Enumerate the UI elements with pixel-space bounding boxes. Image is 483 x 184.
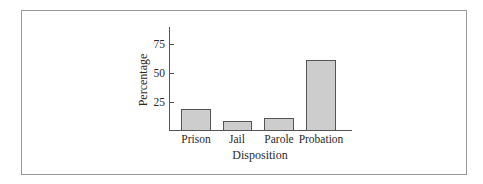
bar-jail	[223, 121, 252, 131]
y-tick-75	[169, 44, 174, 45]
y-tick-label-75: 75	[135, 38, 165, 50]
bar-prison	[181, 109, 211, 131]
y-axis-label: Percentage	[136, 54, 150, 107]
bar-probation	[306, 60, 336, 131]
y-axis	[169, 27, 170, 131]
x-category-label-probation: Probation	[291, 132, 351, 146]
y-tick-50	[169, 73, 174, 74]
y-tick-25	[169, 102, 174, 103]
x-axis-label: Disposition	[200, 148, 320, 162]
bar-parole	[264, 118, 294, 131]
